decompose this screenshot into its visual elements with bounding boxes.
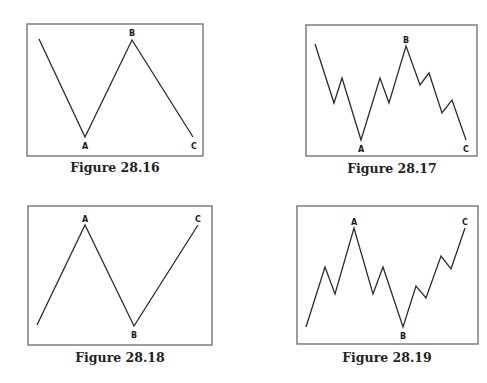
price-wave-line [315, 44, 466, 140]
point-label-c: C [462, 218, 468, 227]
point-label-a: A [82, 215, 89, 224]
point-label-b: B [400, 332, 406, 341]
figure-caption: Figure 28.16 [70, 160, 160, 175]
price-wave-line [306, 228, 465, 327]
price-wave-line [37, 225, 198, 326]
figure-caption: Figure 28.17 [347, 161, 436, 176]
point-label-c: C [191, 142, 197, 151]
figure-28-16: A B C Figure 28.16 [27, 24, 203, 175]
point-label-a: A [358, 145, 365, 154]
figure-28-19: A B C Figure 28.19 [297, 206, 478, 365]
point-label-a: A [351, 218, 358, 227]
point-label-b: B [129, 29, 135, 38]
point-label-c: C [463, 145, 469, 154]
figure-frame [306, 25, 477, 156]
point-label-b: B [403, 36, 409, 45]
figure-frame [28, 206, 212, 345]
figure-28-18: A B C Figure 28.18 [28, 206, 212, 365]
figure-caption: Figure 28.18 [75, 350, 165, 365]
point-label-b: B [131, 331, 137, 340]
figure-caption: Figure 28.19 [342, 350, 431, 365]
price-wave-line [39, 39, 193, 137]
figure-frame [297, 206, 478, 344]
point-label-c: C [195, 215, 201, 224]
figure-28-17: A B C Figure 28.17 [306, 25, 477, 176]
figure-frame [27, 24, 203, 156]
wave-pattern-figures: A B C Figure 28.16 A B C Figure 28.17 A … [0, 0, 487, 383]
point-label-a: A [82, 142, 89, 151]
